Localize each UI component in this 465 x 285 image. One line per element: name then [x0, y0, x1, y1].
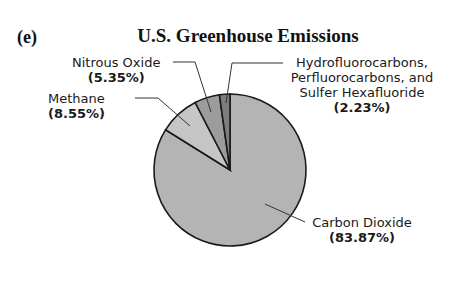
- label-nitrous-oxide: Nitrous Oxide (5.35%): [72, 55, 160, 85]
- label-hfc-pct: (2.23%): [283, 100, 441, 115]
- label-methane-name: Methane: [48, 91, 105, 106]
- label-methane: Methane (8.55%): [48, 91, 105, 121]
- label-carbon-dioxide: Carbon Dioxide (83.87%): [306, 215, 418, 245]
- label-hfc-line2: Perfluorocarbons, and: [283, 70, 441, 85]
- label-co2-name: Carbon Dioxide: [306, 215, 418, 230]
- label-nitrous-name: Nitrous Oxide: [72, 55, 160, 70]
- label-methane-pct: (8.55%): [48, 106, 105, 121]
- label-co2-pct: (83.87%): [306, 230, 418, 245]
- label-hfc-line1: Hydrofluorocarbons,: [283, 55, 441, 70]
- label-hfc-line3: Sulfer Hexafluoride: [283, 85, 441, 100]
- label-hfc: Hydrofluorocarbons, Perfluorocarbons, an…: [283, 55, 441, 115]
- label-nitrous-pct: (5.35%): [72, 70, 160, 85]
